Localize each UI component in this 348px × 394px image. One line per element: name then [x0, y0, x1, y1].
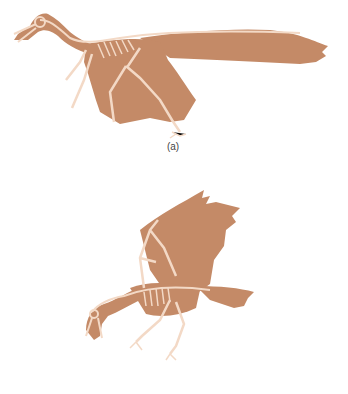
panel-label-a: (a) — [158, 141, 188, 152]
skeleton-illustration-b — [0, 190, 348, 370]
figure-panel-b: (b) — [0, 190, 348, 370]
figure-panel-a: (a) — [0, 0, 348, 150]
skeleton-illustration-a — [0, 0, 348, 150]
